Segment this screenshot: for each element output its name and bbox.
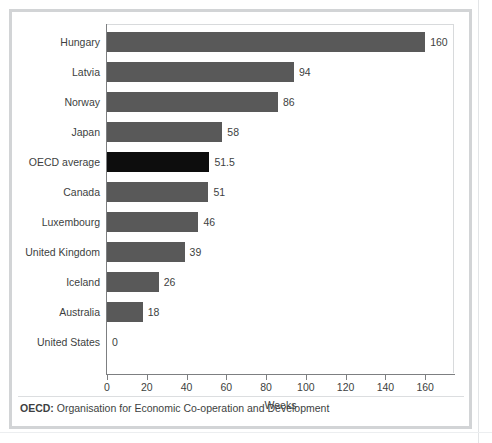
x-axis-tick-label: 80 [246,381,286,393]
frame-outer-shadow-vertical [478,0,479,443]
bar [107,62,294,82]
bar-row: Australia18 [18,297,464,327]
x-axis-tick-mark [266,375,267,380]
x-axis-tick-mark [226,375,227,380]
x-axis-tick-label: 60 [206,381,246,393]
bar-value-label: 46 [203,207,215,237]
bar-value-label: 0 [112,327,118,357]
bar-value-label: 51 [213,177,225,207]
bar-row: United Kingdom39 [18,237,464,267]
x-axis-tick-label: 140 [365,381,405,393]
x-axis-line [106,374,455,375]
bar-category-label: Luxembourg [18,207,100,237]
footnote: OECD: Organisation for Economic Co-opera… [20,402,460,414]
bar-value-label: 160 [430,27,448,57]
bar [107,122,222,142]
bar-value-label: 58 [227,117,239,147]
bar [107,212,198,232]
bar-value-label: 94 [299,57,311,87]
frame-outer-shadow-horizontal [0,432,492,433]
bar-category-label: Hungary [18,27,100,57]
footnote-abbreviation: OECD: [20,402,54,414]
bar-category-label: Japan [18,117,100,147]
bar-category-label: Iceland [18,267,100,297]
bar [107,92,278,112]
footnote-text: Organisation for Economic Co-operation a… [54,402,329,414]
x-axis-tick-label: 0 [87,381,127,393]
bar-category-label: Norway [18,87,100,117]
bar-category-label: OECD average [18,147,100,177]
bar-value-label: 18 [148,297,160,327]
bar-chart: Hungary160Latvia94Norway86Japan58OECD av… [18,18,464,422]
bar-row: United States0 [18,327,464,357]
bar-category-label: United Kingdom [18,237,100,267]
bar-row: OECD average51.5 [18,147,464,177]
bar-value-label: 86 [283,87,295,117]
x-axis-tick-mark [306,375,307,380]
bar-row: Norway86 [18,87,464,117]
x-axis-tick-label: 40 [167,381,207,393]
x-axis-tick-mark [107,375,108,380]
x-axis-tick-mark [385,375,386,380]
bar-row: Luxembourg46 [18,207,464,237]
bar [107,32,425,52]
bar-value-label: 51.5 [214,147,234,177]
x-axis-tick-mark [147,375,148,380]
bar-value-label: 26 [164,267,176,297]
bar-row: Iceland26 [18,267,464,297]
footnote-divider [18,396,464,397]
x-axis-tick-mark [425,375,426,380]
bar-category-label: Canada [18,177,100,207]
bar [107,242,185,262]
bar [107,302,143,322]
bar-row: Latvia94 [18,57,464,87]
x-axis-tick-label: 160 [405,381,445,393]
x-axis-tick-label: 100 [286,381,326,393]
x-axis-tick-label: 20 [127,381,167,393]
bar-category-label: Australia [18,297,100,327]
bar-category-label: Latvia [18,57,100,87]
bar-category-label: United States [18,327,100,357]
x-axis-tick-label: 120 [326,381,366,393]
bar-row: Canada51 [18,177,464,207]
x-axis-tick-mark [346,375,347,380]
bar-row: Japan58 [18,117,464,147]
bar-row: Hungary160 [18,27,464,57]
bar-value-label: 39 [190,237,202,267]
bar [107,182,208,202]
x-axis-tick-mark [187,375,188,380]
bar [107,272,159,292]
bar-highlighted [107,152,209,172]
